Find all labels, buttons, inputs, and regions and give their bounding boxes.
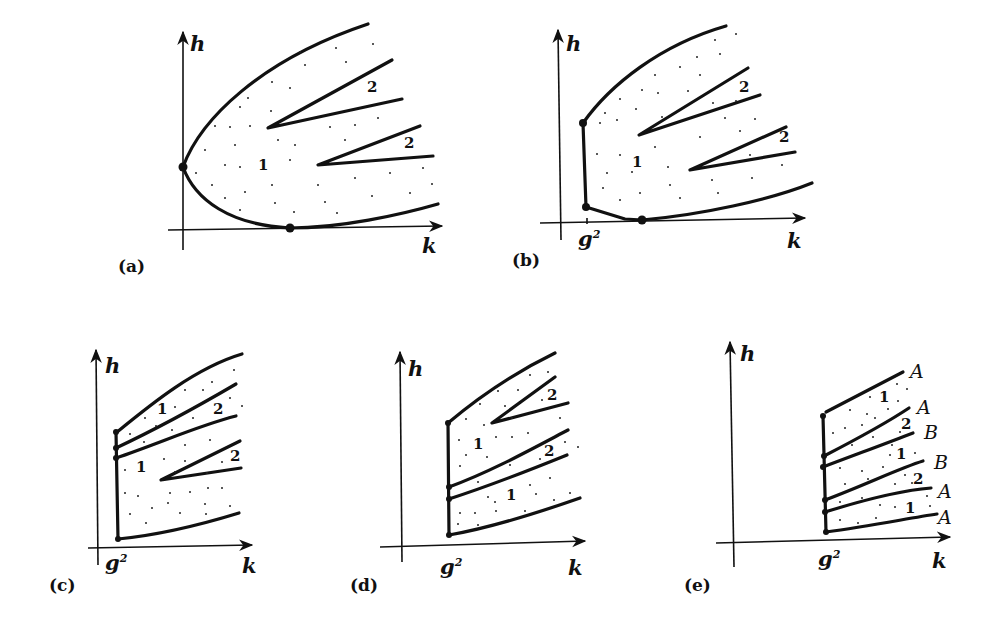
point-2: [113, 445, 119, 451]
curve-label: A: [910, 362, 924, 381]
region-label: 1: [879, 390, 889, 405]
vertex-point: [179, 163, 188, 172]
region-label: 1: [506, 488, 516, 503]
stipple: [124, 369, 243, 524]
upper-boundary: [183, 24, 368, 167]
lower-boundary: [183, 167, 438, 228]
corner-point-lower: [582, 203, 590, 211]
h-axis: [558, 30, 561, 240]
panel-caption: (d): [350, 577, 378, 594]
h-axis-label: h: [408, 358, 423, 379]
h-axis: [730, 342, 734, 567]
region-label: 2: [544, 444, 554, 459]
region-label: 1: [136, 460, 146, 475]
point-6: [823, 529, 829, 535]
k-axis: [716, 537, 950, 543]
point-2: [446, 484, 452, 490]
h-axis: [96, 350, 98, 565]
curve-B2: [825, 461, 923, 500]
k-axis-label: k: [787, 230, 802, 251]
stipple: [195, 43, 433, 214]
point-1: [820, 413, 826, 419]
k-axis: [540, 218, 805, 223]
curve-label: A: [917, 398, 931, 417]
region-label: 2: [230, 449, 240, 464]
g2-tick-label: g2: [578, 228, 600, 249]
k-axis: [380, 541, 585, 547]
panel-caption: (e): [684, 577, 711, 594]
curve-A4: [826, 514, 937, 532]
h-axis-label: h: [105, 355, 120, 376]
region-label: 1: [632, 155, 642, 170]
region-label: 1: [905, 501, 915, 516]
wedge: [161, 441, 241, 480]
panel-caption: (c): [49, 577, 75, 594]
point-3: [113, 455, 119, 461]
region-label: 1: [473, 437, 483, 452]
panel-caption: (a): [118, 258, 145, 275]
curve-label: B: [924, 423, 938, 442]
g2-tick-label: g2: [440, 556, 462, 577]
region-label: 1: [896, 447, 906, 462]
region-label: 2: [367, 80, 377, 95]
wedge-upper: [268, 60, 402, 128]
h-axis-label: h: [566, 33, 581, 54]
region-label: 2: [213, 402, 223, 417]
g2-tick-label: g2: [818, 548, 840, 569]
curve-label: A: [938, 508, 952, 527]
panel-caption: (b): [512, 252, 540, 269]
h-axis: [400, 352, 402, 562]
k-axis: [88, 545, 252, 548]
region-label: 2: [901, 417, 911, 432]
h-axis-label: h: [190, 33, 205, 54]
region-label: 2: [913, 472, 923, 487]
figure-canvas: [0, 0, 995, 630]
panel-b: [540, 26, 812, 240]
point-5: [822, 509, 828, 515]
corner-point-upper: [579, 119, 587, 127]
panel-c: [88, 350, 252, 565]
region-label: 2: [739, 80, 749, 95]
region-label: 2: [779, 130, 789, 145]
vertical-segment: [448, 423, 449, 535]
k-axis-label: k: [242, 555, 257, 576]
bottom-boundary: [118, 513, 239, 539]
region-label: 2: [404, 136, 414, 151]
region-label: 1: [258, 158, 268, 173]
h-axis-label: h: [740, 343, 755, 364]
curve-A1: [826, 372, 903, 412]
k-axis-label: k: [932, 550, 947, 571]
point-3: [446, 496, 452, 502]
wedge-lower: [318, 126, 433, 165]
g2-tick-label: g2: [105, 552, 127, 573]
panel-a: [168, 24, 442, 250]
point-1: [445, 420, 451, 426]
minimum-point: [286, 224, 295, 233]
point-4: [115, 536, 121, 542]
point-2: [821, 453, 827, 459]
point-3: [820, 464, 826, 470]
curve-label: A: [938, 482, 952, 501]
region-label: 1: [157, 402, 167, 417]
point-4: [822, 497, 828, 503]
k-axis-label: k: [568, 557, 583, 578]
vertical-segment: [583, 123, 586, 207]
curve-label: B: [934, 453, 948, 472]
k-axis-label: k: [422, 235, 437, 256]
region-label: 2: [547, 388, 557, 403]
lower-boundary: [586, 183, 812, 220]
point-4: [446, 532, 452, 538]
minimum-point: [638, 216, 647, 225]
point-1: [113, 429, 119, 435]
